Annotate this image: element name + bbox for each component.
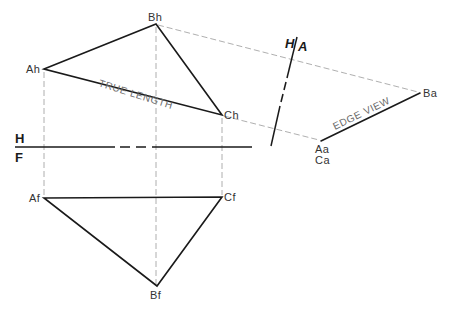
triangle-frontal-view xyxy=(44,197,222,286)
true-length-annotation: TRUE LENGTH xyxy=(97,77,174,111)
point-label-ca: Ca xyxy=(315,154,330,166)
edge-view-line xyxy=(321,93,420,141)
fold-label-f: F xyxy=(15,150,23,165)
point-label-ch: Ch xyxy=(224,109,239,121)
fold-label-a-aux: A xyxy=(297,39,307,54)
auxiliary-view-drawing: H F H A TRUE LENGTH EDGE VIEW Ah Bh Ch A… xyxy=(0,0,451,312)
point-label-cf: Cf xyxy=(224,191,236,203)
point-label-ba: Ba xyxy=(423,87,438,99)
point-label-ah: Ah xyxy=(26,63,40,75)
ha-fold-line xyxy=(271,37,297,146)
fold-label-h: H xyxy=(15,131,24,146)
point-label-af: Af xyxy=(29,192,41,204)
triangle-horizontal-view xyxy=(44,24,222,115)
fold-label-h-aux: H xyxy=(285,36,295,51)
edge-view-annotation: EDGE VIEW xyxy=(331,95,392,132)
point-label-bf: Bf xyxy=(150,289,162,301)
point-label-bh: Bh xyxy=(148,11,162,23)
